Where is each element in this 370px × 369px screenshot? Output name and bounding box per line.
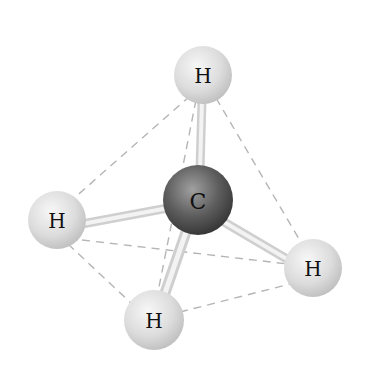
atom-h-left: H (28, 191, 86, 249)
atom-c-center: C (163, 165, 233, 235)
atom-h-bottom: H (124, 290, 184, 350)
atom-label: H (194, 64, 211, 88)
atom-h-top: H (174, 46, 232, 104)
atom-label: H (304, 257, 321, 281)
atom-h-right: H (284, 239, 342, 297)
atom-label: C (190, 189, 207, 214)
methane-diagram: H H H C H (0, 0, 370, 369)
atom-label: H (48, 209, 65, 233)
atom-label: H (145, 309, 162, 333)
edge-left-bottom (68, 244, 132, 304)
edge-bottom-right (180, 284, 290, 312)
